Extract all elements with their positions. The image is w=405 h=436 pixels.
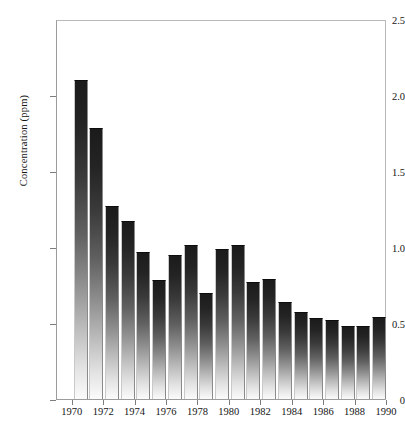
x-tick-mark-1982 — [260, 400, 261, 405]
x-tick-label-1990: 1990 — [376, 406, 397, 417]
x-tick-label-1982: 1982 — [250, 406, 271, 417]
x-tick-label-1984: 1984 — [281, 406, 302, 417]
bar-1972 — [105, 206, 119, 399]
x-tick-mark-1978 — [197, 400, 198, 405]
bar-1973 — [121, 221, 135, 399]
x-tick-mark-1974 — [135, 400, 136, 405]
x-tick-mark-1976 — [166, 400, 167, 405]
bar-1979 — [215, 249, 229, 399]
bar-1977 — [184, 245, 198, 399]
y-tick-mark-0 — [50, 400, 56, 401]
bar-1971 — [89, 128, 103, 399]
x-tick-label-1986: 1986 — [313, 406, 334, 417]
plot-area — [56, 20, 386, 400]
bar-1989 — [372, 317, 386, 399]
x-tick-mark-1986 — [323, 400, 324, 405]
x-tick-label-1972: 1972 — [93, 406, 114, 417]
bar-1988 — [356, 326, 370, 399]
bar-1982 — [262, 279, 276, 399]
bar-1984 — [294, 312, 308, 399]
bar-1976 — [168, 255, 182, 399]
bar-1970 — [74, 80, 88, 399]
x-tick-mark-1988 — [355, 400, 356, 405]
x-tick-mark-1972 — [103, 400, 104, 405]
chart-figure: Concentration (ppm) 00.51.01.52.02.5 197… — [0, 0, 405, 436]
bar-1980 — [231, 245, 245, 399]
x-tick-label-1974: 1974 — [124, 406, 145, 417]
x-tick-label-1978: 1978 — [187, 406, 208, 417]
x-tick-mark-1990 — [386, 400, 387, 405]
bar-1983 — [278, 302, 292, 399]
bar-1986 — [325, 320, 339, 399]
x-tick-label-1988: 1988 — [344, 406, 365, 417]
x-tick-mark-1980 — [229, 400, 230, 405]
bar-series — [57, 21, 385, 399]
x-tick-label-1970: 1970 — [61, 406, 82, 417]
bar-1987 — [341, 326, 355, 399]
x-tick-label-1980: 1980 — [218, 406, 239, 417]
bar-1974 — [136, 252, 150, 399]
y-axis-title: Concentration (ppm) — [18, 56, 29, 226]
bar-1981 — [246, 282, 260, 399]
bar-1975 — [152, 280, 166, 399]
x-tick-mark-1984 — [292, 400, 293, 405]
bar-1978 — [199, 293, 213, 399]
x-tick-mark-1970 — [72, 400, 73, 405]
x-tick-label-1976: 1976 — [156, 406, 177, 417]
bar-1985 — [309, 318, 323, 399]
